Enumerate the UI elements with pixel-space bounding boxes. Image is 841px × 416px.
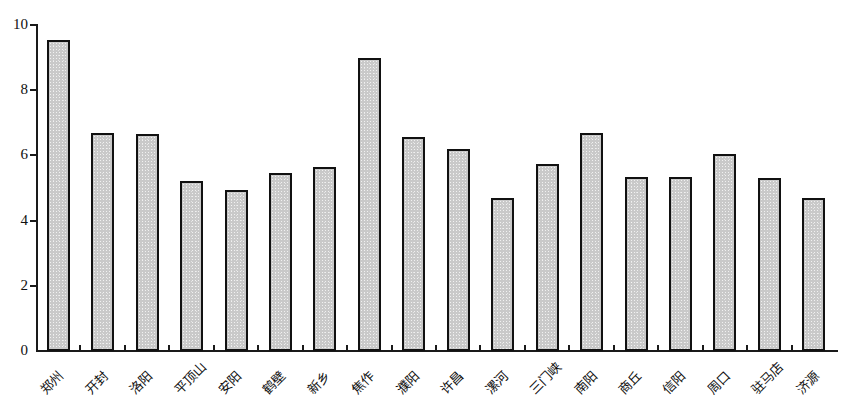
x-axis-label: 平顶山 <box>169 358 209 398</box>
bar <box>91 133 114 351</box>
x-axis-label: 周口 <box>702 367 733 398</box>
bar <box>358 58 381 351</box>
y-axis-tick-label: 6 <box>0 147 28 162</box>
x-axis-label: 漯河 <box>480 367 511 398</box>
x-axis-label: 南阳 <box>569 367 600 398</box>
x-axis-label: 新乡 <box>302 367 333 398</box>
x-axis-label: 洛阳 <box>124 367 155 398</box>
x-axis-label: 济源 <box>791 367 822 398</box>
x-axis-label: 许昌 <box>436 367 467 398</box>
x-axis-label: 郑州 <box>36 367 67 398</box>
bar <box>580 133 603 351</box>
y-axis-tick-label: 4 <box>0 213 28 228</box>
bar <box>269 173 292 351</box>
x-axis-label: 商丘 <box>613 367 644 398</box>
bar <box>313 167 336 351</box>
bar-chart: 0246810 郑州开封洛阳平顶山安阳鹤壁新乡焦作濮阳许昌漯河三门峡南阳商丘信阳… <box>0 0 841 416</box>
bar <box>713 154 736 351</box>
bar <box>669 177 692 351</box>
bar <box>491 198 514 351</box>
x-axis-label: 三门峡 <box>524 358 564 398</box>
x-axis-label: 信阳 <box>658 367 689 398</box>
x-axis-label: 驻马店 <box>747 358 787 398</box>
x-axis-label: 焦作 <box>347 367 378 398</box>
bar <box>802 198 825 351</box>
bar <box>625 177 648 351</box>
x-axis-label: 濮阳 <box>391 367 422 398</box>
bar <box>180 181 203 351</box>
bar <box>47 40 70 351</box>
bar <box>225 190 248 351</box>
bar <box>402 137 425 351</box>
y-axis-tick-label: 10 <box>0 17 28 32</box>
bar <box>536 164 559 351</box>
bar <box>758 178 781 351</box>
y-axis-tick-label: 0 <box>0 343 28 358</box>
y-axis-tick-label: 2 <box>0 278 28 293</box>
bar <box>136 134 159 351</box>
x-axis-label: 开封 <box>80 367 111 398</box>
plot-area <box>36 25 836 351</box>
x-axis-label: 安阳 <box>213 367 244 398</box>
y-axis-tick-label: 8 <box>0 82 28 97</box>
bar <box>447 149 470 351</box>
x-axis-label: 鹤壁 <box>258 367 289 398</box>
